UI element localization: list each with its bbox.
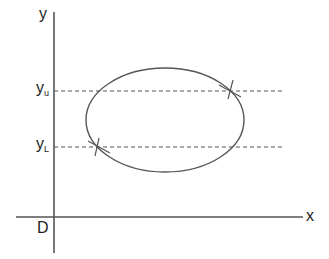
y-axis-label: y — [39, 6, 47, 22]
lower-level-sub: L — [44, 144, 49, 154]
diagram-canvas — [0, 0, 329, 259]
ellipse-curve — [86, 68, 244, 172]
upper-level-sub: u — [44, 88, 49, 98]
lower-level-label: yL — [36, 136, 49, 152]
upper-level-base: y — [36, 79, 44, 96]
upper-tangent-mark — [219, 80, 241, 99]
x-axis-label: x — [306, 208, 314, 224]
origin-label: D — [37, 220, 49, 236]
lower-level-base: y — [36, 135, 44, 152]
upper-level-label: yu — [36, 80, 49, 96]
